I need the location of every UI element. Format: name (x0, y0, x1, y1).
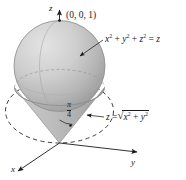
sphere-eq-z-exp: 2 (143, 33, 146, 39)
cone-eq-sqrt: √x2 + y2 (117, 110, 148, 122)
sphere-surface (14, 21, 105, 112)
cone-eq-rx-exp: 2 (128, 111, 131, 117)
fraction: π 4 (67, 101, 71, 120)
sphere-eq-rhs: z (156, 34, 160, 44)
cone-eq-plus: + (133, 112, 138, 122)
radical-icon: √ (117, 110, 123, 121)
sphere-equation-label: x2 + y2 + z2 = z (105, 34, 160, 45)
geometry-figure: z y x (0, 0, 1) x2 + y2 + z2 = z z =√x2 … (0, 0, 186, 180)
axis-y (60, 143, 138, 152)
fraction-denominator: 4 (67, 111, 71, 119)
cone-eq-z: z (106, 112, 110, 122)
sphere-eq-y-exp: 2 (126, 33, 129, 39)
fraction-numerator: π (67, 101, 71, 109)
cone-eq-radicand: x2 + y2 (122, 110, 148, 122)
apex-point-dot (58, 19, 61, 22)
sphere-eq-equals: = (149, 34, 154, 44)
axis-label-x: x (11, 165, 15, 174)
cone-eq-ry-exp: 2 (145, 111, 148, 117)
axis-label-z: z (49, 4, 53, 13)
point-label-0-0-1: (0, 0, 1) (66, 11, 96, 21)
sphere-eq-x-exp: 2 (109, 33, 112, 39)
angle-label-pi-over-4: π 4 (62, 101, 76, 120)
axis-label-y: y (131, 158, 135, 167)
leader-line-cone (87, 115, 104, 117)
figure-canvas (0, 0, 186, 180)
cone-equation-label: z =√x2 + y2 (106, 110, 149, 122)
axis-x (18, 143, 60, 171)
sphere-eq-plus-2: + (132, 34, 137, 44)
angle-vertex-dot (69, 124, 72, 127)
sphere-eq-plus-1: + (115, 34, 120, 44)
